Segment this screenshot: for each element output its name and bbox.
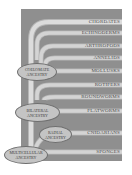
ancestor-oval-radial: RADIAL ANCESTRY bbox=[39, 126, 72, 143]
taxon-label-sponges: SPONGES bbox=[96, 149, 120, 155]
taxon-label-roundworms: ROUNDWORMS bbox=[81, 94, 120, 100]
taxon-label-echinoderms: ECHINODERMS bbox=[82, 30, 120, 36]
ancestor-line2: ANCESTRY bbox=[27, 113, 48, 118]
taxon-label-mollusks: MOLLUSKS bbox=[91, 68, 120, 74]
ancestor-oval-multicellular: MULTICELLULAR ANCESTRY bbox=[4, 146, 48, 164]
ancestor-line2: ANCESTRY bbox=[16, 155, 37, 160]
taxon-label-chordates: CHORDATES bbox=[89, 19, 120, 25]
ancestor-oval-bilateral: BILATERAL ANCESTRY bbox=[15, 103, 60, 122]
taxon-label-rotifers: ROTIFERS bbox=[95, 82, 120, 88]
ancestor-line2: ANCESTRY bbox=[27, 72, 48, 77]
taxon-label-arthropods: ARTHROPODS bbox=[85, 43, 120, 49]
taxon-label-cnidarians: CNIDARIANS bbox=[87, 130, 120, 136]
taxon-label-annelids: ANNELIDS bbox=[93, 55, 120, 61]
ancestor-line2: ANCESTRY bbox=[45, 135, 66, 140]
ancestor-oval-coelomate: COELOMATE ANCESTRY bbox=[17, 63, 57, 81]
taxon-label-flatworms: FLATWORMS bbox=[87, 108, 120, 114]
